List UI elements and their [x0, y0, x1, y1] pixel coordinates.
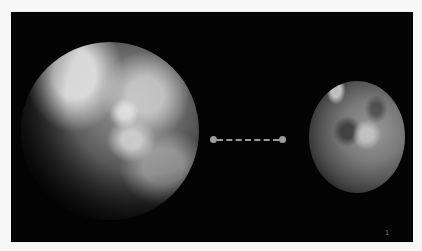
connector-dashed-line	[217, 139, 279, 141]
presentation-slide: 1	[11, 12, 413, 242]
connector-dot-right	[279, 136, 286, 143]
mars-image	[309, 81, 405, 193]
slide-page-number: 1	[385, 229, 389, 236]
earth-image	[21, 42, 199, 220]
dashed-connector	[210, 135, 286, 145]
connector-dot-left	[210, 136, 217, 143]
